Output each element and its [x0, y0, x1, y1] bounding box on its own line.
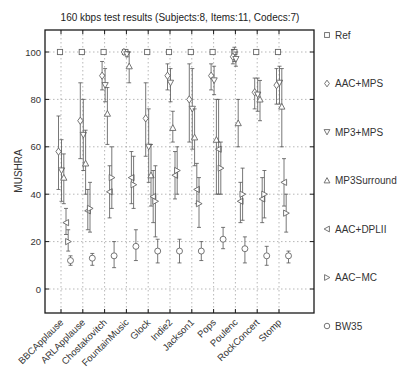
- legend-item: AAC+DPLII: [324, 224, 386, 235]
- legend-label: Ref: [335, 30, 351, 41]
- legend-label: MP3+MPS: [335, 127, 383, 138]
- legend-label: AAC−MC: [335, 272, 377, 283]
- legend-label: AAC+DPLII: [335, 224, 386, 235]
- plot-area: [56, 47, 292, 267]
- legend-item: AAC+MPS: [325, 78, 384, 89]
- y-tick-label: 20: [30, 236, 41, 247]
- legend-item: Ref: [325, 30, 351, 41]
- series-bw35: [68, 227, 292, 267]
- x-tick-label: Stomp: [256, 317, 283, 344]
- legend-label: AAC+MPS: [335, 78, 383, 89]
- chart-title: 160 kbps test results (Subjects:8, Items…: [61, 12, 300, 23]
- legend-item: MP3Surround: [324, 175, 397, 186]
- legend-label: BW35: [335, 321, 363, 332]
- series-ref: [57, 47, 280, 61]
- legend-item: BW35: [324, 321, 362, 332]
- legend-item: AAC−MC: [325, 272, 377, 283]
- legend-item: MP3+MPS: [324, 127, 383, 138]
- y-tick-label: 100: [25, 47, 41, 58]
- series-mp3-mps: [58, 52, 282, 202]
- x-tick-label: Glock: [128, 316, 153, 341]
- y-tick-label: 80: [30, 94, 41, 105]
- series-aac-mps: [56, 48, 279, 189]
- y-tick-label: 60: [30, 141, 41, 152]
- y-axis-label: MUSHRA: [13, 149, 24, 193]
- series-aac-mc: [66, 142, 290, 251]
- legend: RefAAC+MPSMP3+MPSMP3SurroundAAC+DPLIIAAC…: [324, 30, 397, 332]
- mushra-chart: 160 kbps test results (Subjects:8, Items…: [0, 0, 398, 374]
- legend-label: MP3Surround: [335, 175, 397, 186]
- series-mp3surround: [61, 52, 285, 206]
- y-tick-label: 40: [30, 189, 41, 200]
- y-tick-label: 0: [36, 284, 41, 295]
